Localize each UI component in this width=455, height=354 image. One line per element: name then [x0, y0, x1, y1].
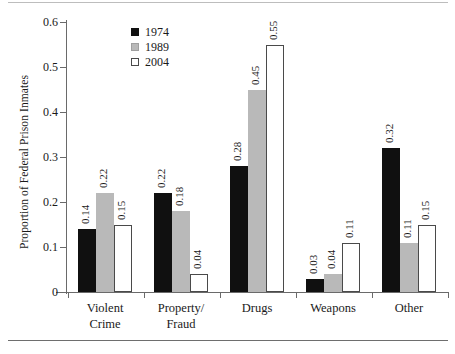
bar[interactable]: 0.04 [324, 274, 342, 292]
bar-value-label: 0.45 [248, 41, 262, 85]
bar[interactable]: 0.18 [172, 211, 190, 292]
x-tick-mark [220, 292, 221, 298]
y-tick-label-wrap: 0.6 [16, 16, 58, 28]
figure-top-rule [8, 2, 448, 3]
y-tick-label: 0.4 [22, 106, 58, 118]
x-tick-mark [144, 292, 145, 298]
bar-group: 0.140.220.15 [78, 22, 132, 292]
y-tick-label-wrap: 0.4 [16, 106, 58, 118]
bar-value-label: 0.15 [114, 176, 128, 220]
y-tick-label-wrap: 0.2 [16, 196, 58, 208]
bar[interactable]: 0.11 [400, 243, 418, 293]
bar[interactable]: 0.11 [342, 243, 360, 293]
bar-value-label: 0.22 [154, 144, 168, 188]
y-tick-mark [60, 292, 67, 293]
y-tick-label: 0.1 [22, 241, 58, 253]
y-tick-label: 0.3 [22, 151, 58, 163]
y-tick-label-wrap: 0.5 [16, 61, 58, 73]
legend-swatch-icon [131, 43, 139, 51]
x-tick-mark [372, 292, 373, 298]
bar-value-label: 0.04 [190, 225, 204, 269]
x-tick-mark [448, 292, 449, 298]
legend-item[interactable]: 1989 [131, 39, 201, 54]
bar-value-label: 0.14 [78, 180, 92, 224]
bar[interactable]: 0.55 [266, 45, 284, 293]
bar[interactable]: 0.14 [78, 229, 96, 292]
bar-value-label: 0.22 [96, 144, 110, 188]
x-category-label: Other [359, 300, 455, 316]
bar[interactable]: 0.22 [96, 193, 114, 292]
bar-value-label: 0.03 [306, 230, 320, 274]
bar-value-label: 0.55 [266, 0, 280, 40]
legend-label: 1974 [145, 26, 169, 38]
x-category-label-line: Other [359, 300, 455, 316]
x-tick-mark [296, 292, 297, 298]
bar-value-label: 0.32 [382, 99, 396, 143]
bar-value-label: 0.18 [172, 162, 186, 206]
legend-swatch-icon [131, 28, 139, 36]
bar-value-label: 0.15 [418, 176, 432, 220]
bar[interactable]: 0.15 [418, 225, 436, 293]
bar-value-label: 0.28 [230, 117, 244, 161]
x-axis-line [56, 292, 448, 293]
bar-value-label: 0.11 [400, 194, 414, 238]
bar[interactable]: 0.03 [306, 279, 324, 293]
bar-group: 0.280.450.55 [230, 22, 284, 292]
y-tick-label: 0.6 [22, 16, 58, 28]
plot-area: 0.140.220.150.220.180.040.280.450.550.03… [66, 22, 448, 292]
y-tick-label-wrap: 0.1 [16, 241, 58, 253]
legend-swatch-icon [131, 58, 139, 66]
bar-group: 0.320.110.15 [382, 22, 436, 292]
bar[interactable]: 0.32 [382, 148, 400, 292]
bar-value-label: 0.11 [342, 194, 356, 238]
x-category-label-line: Fraud [131, 316, 231, 332]
legend-item[interactable]: 1974 [131, 24, 201, 39]
bar[interactable]: 0.04 [190, 274, 208, 292]
bar-chart-figure: Proportion of Federal Prison Inmates 00.… [0, 0, 455, 354]
bar[interactable]: 0.22 [154, 193, 172, 292]
legend-item[interactable]: 2004 [131, 54, 201, 69]
chart-legend: 197419892004 [131, 24, 201, 69]
x-tick-mark [68, 292, 69, 298]
legend-label: 1989 [145, 41, 169, 53]
y-tick-label: 0.5 [22, 61, 58, 73]
y-tick-label: 0 [22, 286, 58, 298]
legend-label: 2004 [145, 56, 169, 68]
y-tick-label-wrap: 0.3 [16, 151, 58, 163]
bar[interactable]: 0.15 [114, 225, 132, 293]
y-tick-label-wrap: 0 [16, 286, 58, 298]
figure-bottom-rule [8, 340, 448, 341]
bar-value-label: 0.04 [324, 225, 338, 269]
bar[interactable]: 0.28 [230, 166, 248, 292]
bar[interactable]: 0.45 [248, 90, 266, 293]
y-tick-label: 0.2 [22, 196, 58, 208]
bar-group: 0.030.040.11 [306, 22, 360, 292]
